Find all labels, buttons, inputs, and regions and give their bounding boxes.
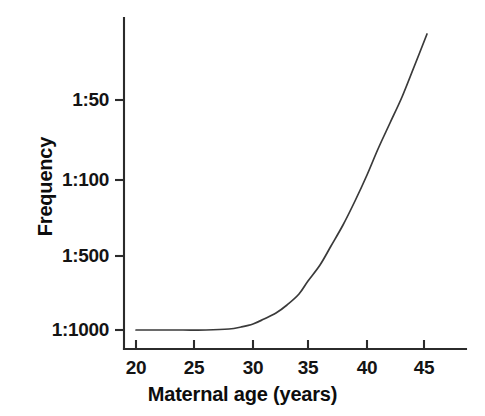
axes-group (124, 18, 466, 349)
y-tick-label: 1:50 (72, 90, 109, 109)
data-curve-line (136, 34, 427, 330)
x-axis-ticks (136, 340, 424, 349)
chart-figure: 1:501:1001:5001:1000 202530354045 Freque… (0, 0, 485, 416)
y-tick-label: 1:1000 (52, 320, 109, 339)
chart-canvas (0, 0, 485, 416)
data-series-group (136, 34, 427, 330)
x-tick-label: 45 (384, 358, 464, 377)
y-axis-ticks (115, 100, 124, 330)
y-axis-title: Frequency (34, 107, 57, 267)
y-tick-label: 1:500 (62, 246, 109, 265)
y-tick-label: 1:100 (62, 170, 109, 189)
x-axis-title: Maternal age (years) (0, 383, 485, 406)
